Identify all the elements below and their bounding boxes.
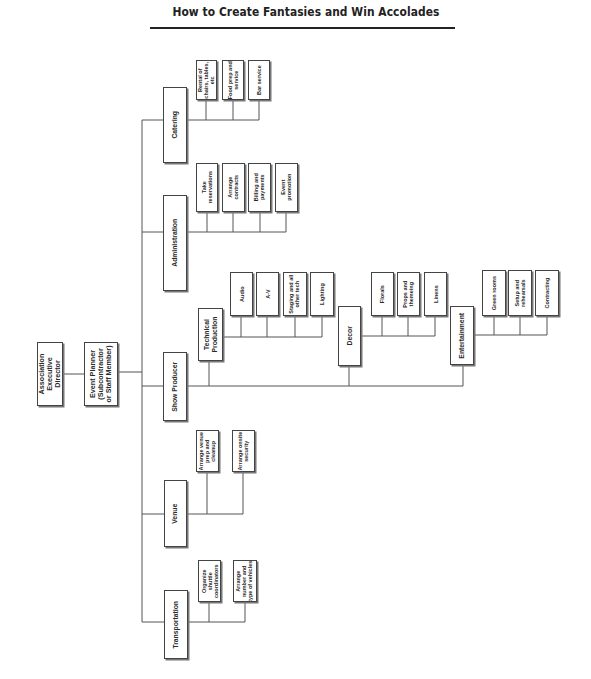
node-show-producer: Show Producer bbox=[163, 352, 187, 421]
node-technical-production: Technical Production bbox=[198, 308, 223, 361]
node-decor-florals: Florals bbox=[371, 272, 394, 316]
node-label: Event Planner (Subcontractor or Staff Me… bbox=[89, 345, 113, 402]
node-decor-linens: Linens bbox=[424, 272, 447, 316]
node-label: Take reservations bbox=[201, 171, 213, 204]
node-tech-lighting: Lighting bbox=[310, 272, 334, 316]
node-catering-bar-service: Bar service bbox=[248, 60, 270, 100]
node-tech-staging: Staging and all other tech bbox=[283, 272, 307, 316]
node-administration: Administration bbox=[163, 195, 187, 291]
node-ent-setup: Setup and rehearsals bbox=[508, 270, 532, 316]
node-transport-shuttle: Organize shuttle coordinators bbox=[198, 560, 221, 602]
node-label: Green rooms bbox=[491, 276, 497, 310]
node-label: Decor bbox=[346, 326, 354, 345]
node-label: Arrange venue prep and cleanup bbox=[198, 432, 217, 471]
node-label: Transportation bbox=[172, 601, 180, 649]
node-label: Food prep and service bbox=[227, 61, 239, 99]
node-label: Arrange number and type of vehicles bbox=[236, 560, 255, 601]
node-label: A-V bbox=[264, 289, 270, 298]
node-entertainment: Entertainment bbox=[450, 306, 474, 365]
node-admin-reservations: Take reservations bbox=[196, 163, 218, 212]
node-label: Billing and payments bbox=[253, 173, 265, 201]
node-tech-av: A-V bbox=[256, 272, 279, 316]
node-label: Venue bbox=[172, 503, 180, 523]
node-venue-prep: Arrange venue prep and cleanup bbox=[196, 430, 219, 472]
node-catering-food-prep: Food prep and service bbox=[222, 60, 244, 100]
node-ent-contracting: Contracting bbox=[535, 270, 559, 316]
node-label: Setup and rehearsals bbox=[514, 279, 526, 307]
node-label: Association Executive Director bbox=[38, 354, 62, 395]
node-label: Lighting bbox=[319, 283, 325, 305]
node-admin-billing: Billing and payments bbox=[248, 163, 271, 212]
node-tech-audio: Audio bbox=[230, 272, 253, 316]
node-label: Linens bbox=[432, 285, 438, 303]
node-label: Staging and all other tech bbox=[289, 274, 301, 313]
node-event-planner: Event Planner (Subcontractor or Staff Me… bbox=[84, 342, 118, 406]
node-catering: Catering bbox=[163, 87, 187, 163]
node-association-executive-director: Association Executive Director bbox=[37, 342, 63, 406]
node-venue: Venue bbox=[164, 480, 187, 547]
node-admin-promotion: Event promotion bbox=[275, 163, 298, 212]
node-admin-contracts: Arrange contracts bbox=[222, 163, 245, 212]
connector-lines bbox=[0, 0, 591, 679]
node-label: Florals bbox=[379, 285, 385, 303]
node-label: Props and themeing bbox=[402, 281, 414, 308]
node-label: Entertainment bbox=[458, 313, 466, 359]
node-label: Bar service bbox=[256, 65, 262, 95]
node-venue-security: Arrange onsite security bbox=[232, 430, 255, 472]
node-label: Rental of chairs, tables, etc bbox=[197, 62, 216, 99]
node-label: Event promotion bbox=[280, 174, 292, 201]
node-transportation: Transportation bbox=[164, 590, 188, 659]
node-label: Technical Production bbox=[203, 317, 218, 353]
node-label: Administration bbox=[171, 219, 179, 267]
node-label: Organize shuttle coordinators bbox=[200, 564, 219, 598]
node-label: Audio bbox=[238, 286, 244, 302]
node-decor-props: Props and themeing bbox=[397, 272, 420, 316]
node-ent-green-rooms: Green rooms bbox=[482, 270, 506, 316]
node-label: Catering bbox=[171, 111, 179, 139]
node-catering-rental: Rental of chairs, tables, etc bbox=[196, 60, 217, 100]
node-transport-vehicles: Arrange number and type of vehicles bbox=[233, 560, 257, 602]
node-label: Contracting bbox=[544, 278, 550, 309]
node-label: Arrange contracts bbox=[227, 175, 239, 200]
node-label: Arrange onsite security bbox=[237, 432, 249, 471]
node-label: Show Producer bbox=[171, 362, 179, 412]
node-decor: Decor bbox=[338, 306, 361, 366]
